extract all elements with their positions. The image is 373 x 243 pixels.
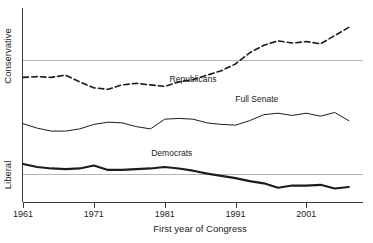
chart-figure: 19611971198119912001 RepublicansFull Sen… <box>0 0 373 243</box>
series-line-full-senate <box>23 112 349 131</box>
x-tick-label-1961: 1961 <box>13 209 33 219</box>
x-axis-tick-labels: 19611971198119912001 <box>13 209 316 219</box>
series-label-full-senate: Full Senate <box>235 94 278 104</box>
series-label-republicans: Republicans <box>170 74 217 84</box>
axes <box>23 8 364 203</box>
x-tick-label-1981: 1981 <box>155 209 175 219</box>
series-line-democrats <box>23 164 349 189</box>
series-label-democrats: Democrats <box>151 148 192 158</box>
line-chart-svg: 19611971198119912001 RepublicansFull Sen… <box>0 0 373 243</box>
y-axis-label-liberal: Liberal <box>2 161 13 190</box>
x-axis-title: First year of Congress <box>153 223 247 234</box>
y-axis-label-conservative: Conservative <box>2 28 13 83</box>
x-tick-label-1991: 1991 <box>225 209 245 219</box>
x-tick-label-1971: 1971 <box>84 209 104 219</box>
data-series-group <box>23 27 349 188</box>
x-axis-ticks <box>24 203 307 208</box>
x-tick-label-2001: 2001 <box>296 209 316 219</box>
